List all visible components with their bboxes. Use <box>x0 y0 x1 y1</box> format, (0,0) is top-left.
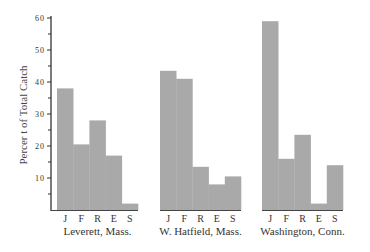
category-label: R <box>197 213 204 224</box>
category-label: E <box>316 213 322 224</box>
y-tick-label: 60 <box>35 14 45 23</box>
bar-s <box>122 204 139 210</box>
bar-chart: 102030405060 Percer t of Total Catch JFR… <box>0 0 370 252</box>
category-label: J <box>63 213 67 224</box>
group-label: Leverett, Mass. <box>63 225 131 237</box>
bar-e <box>209 184 226 210</box>
y-tick-label: 50 <box>35 46 45 55</box>
category-label: F <box>79 213 85 224</box>
bar-groups: JFRESLeverett, Mass.JFRESW. Hatfield, Ma… <box>51 21 345 237</box>
y-axis-label: Percer t of Total Catch <box>17 65 29 165</box>
category-label: S <box>230 213 236 224</box>
category-label: F <box>284 213 290 224</box>
y-tick-label: 20 <box>35 142 45 151</box>
y-tick-label: 40 <box>35 78 45 87</box>
bar-f <box>73 144 90 210</box>
category-label: S <box>127 213 133 224</box>
bar-s <box>225 176 242 210</box>
bar-r <box>192 167 209 210</box>
bar-group: JFRESLeverett, Mass. <box>51 88 138 237</box>
bar-group: JFRESWashington, Conn. <box>260 21 345 237</box>
category-label: E <box>214 213 220 224</box>
group-label: W. Hatfield, Mass. <box>159 225 242 237</box>
y-tick-label: 10 <box>35 174 45 183</box>
bar-j <box>160 71 177 210</box>
group-label: Washington, Conn. <box>260 225 345 237</box>
bar-j <box>262 21 279 210</box>
bar-s <box>327 165 344 210</box>
category-label: S <box>332 213 338 224</box>
category-label: R <box>94 213 101 224</box>
bar-e <box>311 204 328 210</box>
category-label: R <box>299 213 306 224</box>
bar-j <box>57 88 74 210</box>
bar-e <box>106 156 123 210</box>
category-label: F <box>182 213 188 224</box>
bar-f <box>176 79 193 210</box>
bar-group: JFRESW. Hatfield, Mass. <box>159 71 242 237</box>
y-axis: 102030405060 <box>35 14 51 211</box>
y-tick-label: 30 <box>35 110 45 119</box>
category-label: E <box>111 213 117 224</box>
bar-r <box>294 135 311 210</box>
category-label: J <box>268 213 272 224</box>
bar-r <box>89 120 106 210</box>
bar-f <box>278 159 295 210</box>
category-label: J <box>166 213 170 224</box>
